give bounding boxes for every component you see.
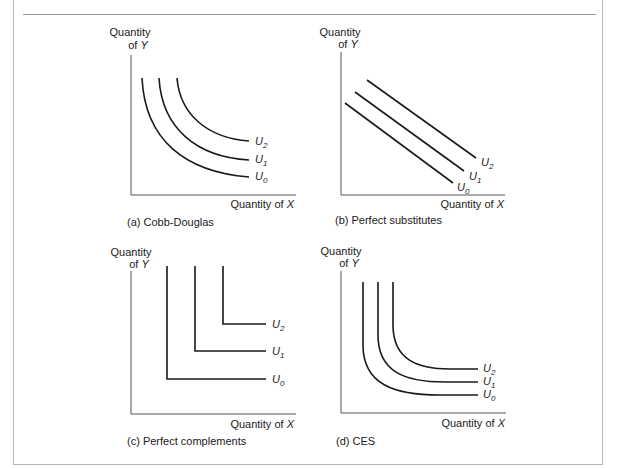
axes <box>131 271 296 414</box>
axes <box>131 55 296 195</box>
indifference-curve-u2 <box>367 80 476 158</box>
curve-label-u1: U1 <box>255 153 267 168</box>
indifference-curve-u0 <box>363 282 478 395</box>
indifference-curve-u2 <box>393 282 478 369</box>
axes <box>341 52 505 195</box>
indifference-curves-figure: Quantity of Y U2 U1 U0 Quantity of X (a)… <box>0 0 618 468</box>
curve-label-u1: U1 <box>272 345 284 360</box>
indifference-curve-u2 <box>177 78 249 141</box>
y-axis-label-line1: Quantity <box>320 26 361 38</box>
panel-caption: (c) Perfect complements <box>127 435 247 447</box>
panel-caption: (b) Perfect substitutes <box>335 214 442 226</box>
x-axis-label: Quantity of X <box>230 418 294 430</box>
x-axis-label: Quantity of X <box>440 198 504 210</box>
axes <box>341 271 506 413</box>
curve-label-u0: U0 <box>457 181 470 196</box>
indifference-curve-u1 <box>195 266 266 351</box>
curve-label-u0: U0 <box>272 373 285 388</box>
curve-label-u2: U2 <box>255 135 268 150</box>
curve-label-u2: U2 <box>481 156 494 171</box>
y-axis-label-line2: of Y <box>339 257 359 269</box>
curve-label-u2: U2 <box>272 318 285 333</box>
curve-label-u1: U1 <box>469 170 481 185</box>
x-axis-label: Quantity of X <box>441 417 505 429</box>
panel-a-cobb-douglas: Quantity of Y U2 U1 U0 Quantity of X (a)… <box>110 26 296 228</box>
panel-d-ces: Quantity of Y U2 U1 U0 Quantity of X (d)… <box>321 245 506 447</box>
panel-b-perfect-substitutes: Quantity of Y U2 U1 U0 Quantity of X (b)… <box>320 26 505 226</box>
y-axis-label-line1: Quantity <box>321 245 362 257</box>
y-axis-label-line2: of Y <box>338 38 358 50</box>
indifference-curve-u0 <box>345 103 453 183</box>
panel-c-perfect-complements: Quantity of Y U2 U1 U0 Quantity of X (c)… <box>111 246 296 447</box>
indifference-curve-u0 <box>142 78 249 177</box>
x-axis-label: Quantity of X <box>230 198 294 210</box>
y-axis-label-line1: Quantity <box>111 246 152 258</box>
panel-caption: (d) CES <box>336 435 375 447</box>
curve-label-u0: U0 <box>255 170 268 185</box>
y-axis-label-line2: of Y <box>128 39 148 51</box>
indifference-curve-u2 <box>223 266 266 324</box>
curve-label-u0: U0 <box>483 388 496 403</box>
y-axis-label-line1: Quantity <box>110 26 151 38</box>
y-axis-label-line2: of Y <box>129 258 149 270</box>
indifference-curve-u0 <box>167 266 266 379</box>
indifference-curve-u1 <box>355 92 464 171</box>
panel-caption: (a) Cobb-Douglas <box>127 216 214 228</box>
